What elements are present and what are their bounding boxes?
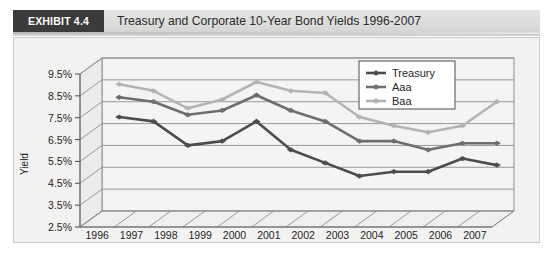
legend-label-aaa: Aaa [392,81,412,93]
y-axis-tick-label: 8.5% [48,90,72,102]
y-axis-tick-label: 2.5% [48,221,72,233]
chart-legend: TreasuryAaaBaa [359,61,455,109]
chart-panel: 2.5%3.5%4.5%5.5%6.5%7.5%8.5%9.5% 1996199… [13,37,540,243]
bond-yields-line-chart: 2.5%3.5%4.5%5.5%6.5%7.5%8.5%9.5% 1996199… [14,38,539,242]
y-axis-tick-label: 6.5% [48,134,72,146]
x-axis-tick-label: 2002 [291,229,315,241]
y-axis-tick-label: 3.5% [48,199,72,211]
x-axis-tick-label: 2005 [394,229,418,241]
exhibit-badge: EXHIBIT 4.4 [13,10,104,32]
y-axis-tick-label: 5.5% [48,155,72,167]
x-axis-tick-label: 1997 [120,229,144,241]
x-axis-tick-label: 2006 [429,229,453,241]
y-axis-tick-label: 4.5% [48,177,72,189]
exhibit-title: Treasury and Corporate 10-Year Bond Yiel… [117,10,421,32]
y-axis-tick-label: 7.5% [48,112,72,124]
y-axis-title: Yield [19,153,30,175]
header-divider [13,32,540,34]
x-axis-tick-label: 2003 [326,229,350,241]
y-axis-tick-label: 9.5% [48,68,72,80]
x-axis-tick-label: 1998 [154,229,178,241]
x-axis-tick-label: 1996 [85,229,109,241]
legend-label-treasury: Treasury [392,67,435,79]
y-axis-ticks: 2.5%3.5%4.5%5.5%6.5%7.5%8.5%9.5% [48,68,80,233]
x-axis-tick-label: 1999 [188,229,212,241]
legend-label-baa: Baa [392,95,412,107]
x-axis-tick-label: 2007 [463,229,487,241]
x-axis-tick-label: 2001 [257,229,281,241]
x-axis-tick-label: 2004 [360,229,384,241]
x-axis-tick-label: 2000 [223,229,247,241]
